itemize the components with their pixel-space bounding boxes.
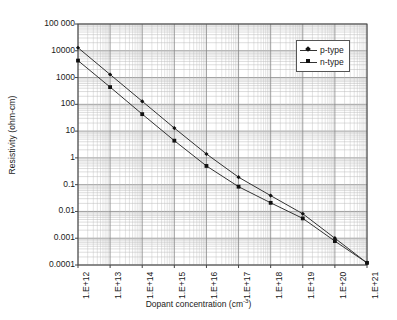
x-axis-title-text: Dopant concentration (cm <box>146 299 243 309</box>
x-tick-label: 1.E+21 <box>371 272 380 299</box>
x-tick-label: 1.E+17 <box>243 272 252 299</box>
chart-legend: p-typen-type <box>296 40 350 72</box>
x-tick-label: 1.E+15 <box>178 272 187 299</box>
legend-marker-diamond-icon <box>300 46 317 55</box>
x-tick-label: 1.E+19 <box>307 272 316 299</box>
x-tick-label: 1.E+12 <box>82 272 91 299</box>
legend-marker-square-icon <box>300 58 317 67</box>
x-tick-label: 1.E+14 <box>146 272 155 299</box>
legend-item-n-type: n-type <box>300 56 344 68</box>
legend-label: n-type <box>320 56 344 68</box>
x-axis-title-tail: ) <box>249 299 252 309</box>
x-axis-title: Dopant concentration (cm-3) <box>0 299 397 309</box>
x-tick-label: 1.E+13 <box>114 272 123 299</box>
legend-item-p-type: p-type <box>300 44 344 56</box>
legend-label: p-type <box>320 44 344 56</box>
resistivity-vs-dopant-chart: Resistivity (ohm-cm) 100 000100001000100… <box>0 0 397 320</box>
x-tick-label: 1.E+20 <box>339 272 348 299</box>
x-tick-label: 1.E+18 <box>275 272 284 299</box>
x-tick-label: 1.E+16 <box>210 272 219 299</box>
